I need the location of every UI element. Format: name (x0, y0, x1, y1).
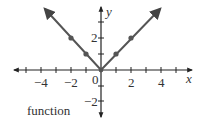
function-line (45, 9, 160, 70)
x-tick-label-neg4: −4 (34, 75, 48, 90)
x-tick-label-2: 2 (128, 75, 135, 90)
point-2-2 (128, 35, 133, 40)
y-axis-label: y (104, 4, 112, 19)
point-origin (99, 68, 104, 73)
x-tick-label-neg2: −2 (64, 75, 78, 90)
y-tick-label-2: 2 (91, 30, 98, 45)
point-1-1 (113, 51, 118, 56)
origin-label: 0 (92, 72, 99, 87)
point-neg1-1 (83, 51, 88, 56)
x-tick-label-4: 4 (158, 75, 165, 90)
point-neg2-2 (68, 35, 73, 40)
y-tick-label-neg2: −2 (84, 94, 98, 109)
caption: function (27, 103, 70, 119)
x-axis-label: x (185, 71, 192, 86)
